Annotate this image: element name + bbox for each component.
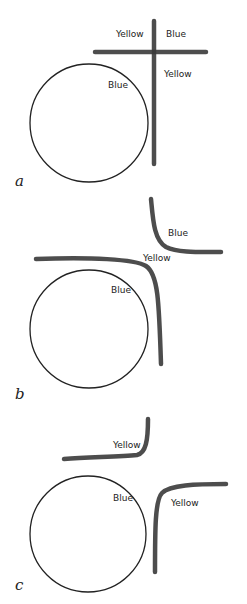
label-circle-b: Blue: [111, 285, 131, 295]
panel-label-c: c: [15, 576, 24, 594]
circle-a: [30, 64, 148, 182]
label-circle-c: Blue: [113, 493, 133, 503]
panel-label-b: b: [15, 385, 25, 403]
panel-a: Yellow Blue Yellow Blue a: [15, 21, 206, 190]
panel-b: Blue Yellow Blue b: [15, 199, 221, 403]
curve-left-b: [36, 258, 161, 364]
label-blue-topright-a: Blue: [166, 29, 186, 39]
curve-right-b: [151, 199, 221, 252]
label-blue-b: Blue: [168, 228, 188, 238]
label-yellow-top-c: Yellow: [112, 440, 141, 450]
panel-c: Yellow Yellow Blue c: [15, 419, 226, 594]
label-yellow-topleft-a: Yellow: [115, 29, 144, 39]
panel-label-a: a: [15, 172, 24, 190]
diagram-canvas: Yellow Blue Yellow Blue a Blue Yellow Bl…: [0, 0, 247, 604]
label-yellow-right-c: Yellow: [170, 498, 199, 508]
label-yellow-bottomright-a: Yellow: [163, 69, 192, 79]
curve-top-c: [64, 419, 148, 459]
label-circle-a: Blue: [108, 80, 128, 90]
label-yellow-b: Yellow: [142, 253, 171, 263]
